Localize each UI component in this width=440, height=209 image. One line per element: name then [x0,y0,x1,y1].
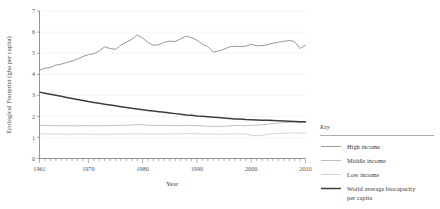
x-tick-label: 1970 [82,165,94,172]
legend-label-high-income: High income [347,143,380,150]
x-tick-label: 2010 [299,165,311,172]
y-tick-label: 6 [32,28,35,35]
legend-label-middle-income: Middle income [347,157,386,164]
legend-title: Key [319,123,330,130]
y-tick-label: 3 [32,91,35,98]
x-tick-label: 1990 [191,165,203,172]
legend-label-world-biocapacity-line1: World average biocapacity [347,185,416,192]
legend-label-world-biocapacity-line2: per capita [347,194,372,201]
chart-figure: 01234567 196119701980199020002010 Year E… [0,0,440,209]
x-tick-label: 1980 [136,165,148,172]
y-tick-label: 5 [32,49,35,56]
y-axis-title: Ecological Footprint (gha per capita) [5,36,13,133]
y-tick-label: 0 [32,155,35,162]
ecological-footprint-line-chart: 01234567 196119701980199020002010 Year E… [0,0,440,209]
y-tick-label: 2 [32,113,35,120]
x-tick-label: 1961 [33,165,45,172]
legend-label-low-income: Low income [347,171,379,178]
x-axis-title: Year [166,180,179,187]
x-tick-label: 2000 [245,165,257,172]
y-tick-label: 4 [32,70,35,77]
y-tick-label: 1 [32,134,35,141]
y-tick-label: 7 [32,7,35,14]
